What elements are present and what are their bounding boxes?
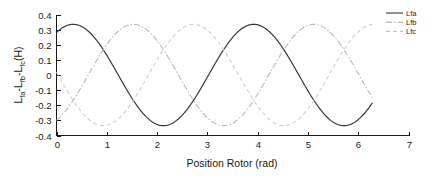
x-tick-label: 7 [407, 139, 412, 150]
y-tick-label: 0.4 [38, 10, 51, 21]
curve-lfb [57, 24, 373, 125]
x-tick-labels: 01234567 [55, 139, 412, 150]
y-tick-label: 0.1 [38, 55, 51, 66]
y-tick-label: 0 [46, 70, 51, 81]
plot-svg: -0.4-0.3-0.2-0.100.10.20.30.4 01234567 P… [0, 0, 431, 176]
curve-lfa [57, 24, 373, 125]
x-tick-label: 6 [356, 139, 361, 150]
data-curves [57, 24, 373, 125]
y-title-p3: -L [12, 67, 24, 76]
axes-frame [57, 15, 409, 136]
curve-lfc [57, 24, 373, 125]
y-title-p2: -L [12, 82, 24, 91]
legend-label-lfc: Lfc [406, 27, 416, 36]
svg-text:Lfa-Lfb-Lfc(H): Lfa-Lfb-Lfc(H) [12, 46, 27, 103]
y-tick-label: -0.4 [35, 131, 51, 142]
x-tick-label: 3 [205, 139, 210, 150]
y-tick-label: -0.2 [35, 100, 51, 111]
y-tick-label: -0.3 [35, 115, 51, 126]
y-tick-label: -0.1 [35, 85, 51, 96]
chart-figure: -0.4-0.3-0.2-0.100.10.20.30.4 01234567 P… [0, 0, 431, 176]
axis-lines [57, 15, 409, 136]
y-tick-label: 0.2 [38, 40, 51, 51]
legend-label-lfb: Lfb [406, 18, 416, 27]
y-tick-labels: -0.4-0.3-0.2-0.100.10.20.30.4 [35, 10, 51, 142]
x-tick-label: 5 [306, 139, 311, 150]
y-tick-label: 0.3 [38, 25, 51, 36]
y-title-p4: (H) [12, 46, 24, 61]
x-axis-title: Position Rotor (rad) [186, 157, 277, 169]
x-tick-label: 2 [155, 139, 160, 150]
legend-label-lfa: Lfa [406, 9, 417, 18]
x-tick-label: 4 [256, 139, 261, 150]
x-tick-label: 1 [105, 139, 110, 150]
legend: LfaLfbLfc [386, 9, 417, 36]
y-axis-title: Lfa-Lfb-Lfc(H) [12, 46, 27, 103]
x-tick-label: 0 [55, 139, 60, 150]
x-axis-ticks [58, 132, 410, 136]
